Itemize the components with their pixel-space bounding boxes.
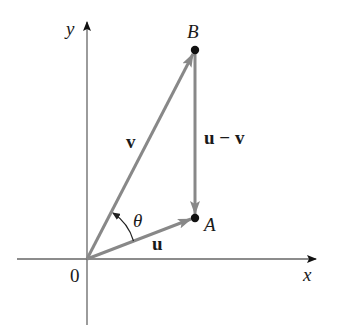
point-A [191, 214, 199, 222]
vector-v-label: v [126, 131, 136, 152]
point-B-label: B [187, 21, 199, 42]
diagram-svg: y x 0 B A v u u − v θ [0, 0, 343, 330]
y-axis-label: y [64, 18, 75, 39]
vector-u-label: u [152, 233, 163, 254]
point-A-label: A [202, 214, 216, 235]
point-B [191, 46, 199, 54]
angle-arc-theta [113, 213, 134, 241]
angle-theta-label: θ [133, 210, 142, 231]
origin-label: 0 [70, 265, 80, 286]
vector-u-minus-v-label: u − v [204, 127, 245, 148]
vector-diagram: y x 0 B A v u u − v θ [0, 0, 343, 330]
x-axis-label: x [302, 264, 312, 285]
